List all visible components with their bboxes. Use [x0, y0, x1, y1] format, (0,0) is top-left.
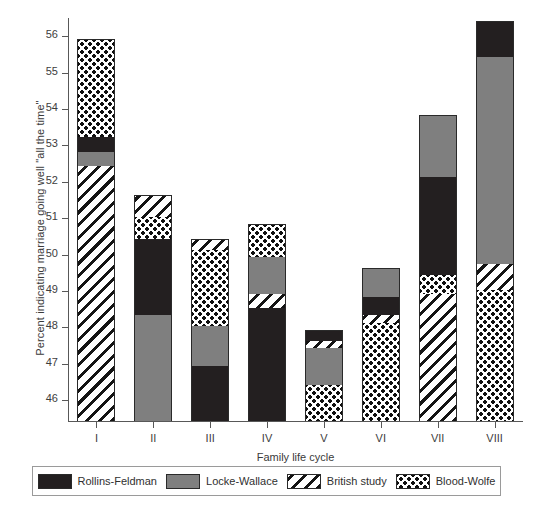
chart-legend: Rollins-FeldmanLocke-WallaceBritish stud…: [32, 466, 501, 496]
x-tick-label: VI: [361, 432, 401, 444]
bar-iv[interactable]: [248, 224, 286, 421]
x-tick-label: IV: [247, 432, 287, 444]
y-tick-label: 48: [46, 319, 58, 331]
y-tick-label: 47: [46, 356, 58, 368]
y-tick-label: 54: [46, 101, 58, 113]
bar-segment[interactable]: [248, 294, 286, 309]
y-tick: 48: [62, 327, 68, 328]
x-tick: [267, 422, 268, 428]
chart-figure: Percent indicating marriage going well "…: [0, 0, 533, 517]
legend-swatch-icon: [38, 474, 72, 489]
x-tick: [495, 422, 496, 428]
bar-vi[interactable]: [362, 268, 400, 421]
legend-swatch-icon: [166, 474, 200, 489]
x-tick: [438, 422, 439, 428]
bar-segment[interactable]: [248, 224, 286, 257]
bar-segment[interactable]: [134, 315, 172, 421]
x-tick-label: III: [190, 432, 230, 444]
bar-segment[interactable]: [419, 275, 457, 293]
x-tick: [381, 422, 382, 428]
y-tick-label: 46: [46, 392, 58, 404]
bar-segment[interactable]: [362, 268, 400, 297]
bar-v[interactable]: [305, 330, 343, 421]
plot-area: 4647484950515253545556 IIIIIIIVVVIVIIVII…: [68, 18, 523, 422]
y-tick-label: 49: [46, 283, 58, 295]
x-tick-label: VIII: [475, 432, 515, 444]
bar-segment[interactable]: [305, 348, 343, 384]
legend-item[interactable]: Rollins-Feldman: [38, 474, 157, 489]
bar-segment[interactable]: [419, 115, 457, 177]
legend-label: Locke-Wallace: [206, 475, 278, 487]
bar-segment[interactable]: [191, 239, 229, 250]
x-axis-label: Family life cycle: [68, 451, 523, 463]
bar-segment[interactable]: [248, 308, 286, 421]
x-tick-label: I: [76, 432, 116, 444]
legend-swatch-icon: [396, 474, 430, 489]
y-tick-label: 56: [46, 28, 58, 40]
bar-viii[interactable]: [476, 21, 514, 421]
bar-segment[interactable]: [77, 166, 115, 421]
bar-segment[interactable]: [134, 195, 172, 217]
bar-segment[interactable]: [476, 21, 514, 57]
x-tick-label: II: [133, 432, 173, 444]
y-tick-label: 52: [46, 174, 58, 186]
bar-segment[interactable]: [362, 323, 400, 421]
bar-segment[interactable]: [191, 326, 229, 366]
x-tick: [324, 422, 325, 428]
y-tick: 52: [62, 182, 68, 183]
y-tick: 51: [62, 218, 68, 219]
bar-segment[interactable]: [77, 152, 115, 167]
bar-segment[interactable]: [476, 264, 514, 289]
bar-segment[interactable]: [305, 385, 343, 421]
legend-label: British study: [327, 475, 387, 487]
bar-segment[interactable]: [419, 294, 457, 421]
bar-segment[interactable]: [362, 315, 400, 322]
y-tick: 54: [62, 109, 68, 110]
bar-ii[interactable]: [134, 195, 172, 421]
bar-segment[interactable]: [77, 137, 115, 152]
bar-segment[interactable]: [362, 297, 400, 315]
x-tick-label: V: [304, 432, 344, 444]
bar-segment[interactable]: [305, 330, 343, 341]
x-tick: [153, 422, 154, 428]
y-tick: 47: [62, 364, 68, 365]
y-tick: 53: [62, 145, 68, 146]
bar-segment[interactable]: [419, 177, 457, 275]
bar-segment[interactable]: [476, 57, 514, 264]
y-axis-label: Percent indicating marriage going well "…: [34, 28, 46, 428]
bar-segment[interactable]: [77, 39, 115, 137]
x-tick: [210, 422, 211, 428]
bar-segment[interactable]: [191, 250, 229, 326]
x-tick: [96, 422, 97, 428]
y-axis-spine: [68, 18, 69, 422]
x-tick-label: VII: [418, 432, 458, 444]
y-tick-label: 55: [46, 65, 58, 77]
y-tick-label: 53: [46, 137, 58, 149]
y-tick: 56: [62, 36, 68, 37]
bar-iii[interactable]: [191, 239, 229, 421]
legend-label: Rollins-Feldman: [78, 475, 157, 487]
y-tick: 46: [62, 400, 68, 401]
bar-vii[interactable]: [419, 115, 457, 421]
legend-swatch-icon: [287, 474, 321, 489]
legend-label: Blood-Wolfe: [436, 475, 496, 487]
y-tick-label: 50: [46, 247, 58, 259]
bar-i[interactable]: [77, 39, 115, 421]
legend-item[interactable]: Blood-Wolfe: [396, 474, 496, 489]
y-tick-label: 51: [46, 210, 58, 222]
x-axis-spine: [68, 421, 523, 422]
bar-segment[interactable]: [305, 341, 343, 348]
bar-segment[interactable]: [134, 217, 172, 239]
y-tick: 49: [62, 291, 68, 292]
bar-segment[interactable]: [476, 290, 514, 421]
y-tick: 50: [62, 255, 68, 256]
legend-item[interactable]: British study: [287, 474, 387, 489]
bar-segment[interactable]: [248, 257, 286, 293]
y-tick: 55: [62, 73, 68, 74]
bar-segment[interactable]: [134, 239, 172, 315]
legend-item[interactable]: Locke-Wallace: [166, 474, 278, 489]
bar-segment[interactable]: [191, 366, 229, 421]
